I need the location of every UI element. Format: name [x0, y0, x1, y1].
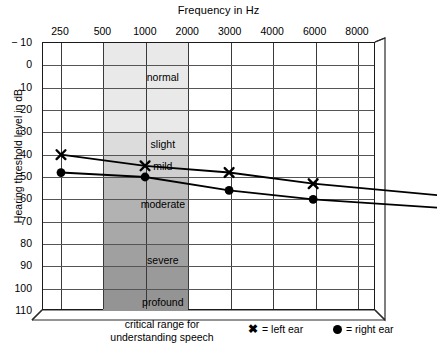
legend-left-ear: ✖ = left ear — [248, 323, 303, 335]
critical-range-caption: critical range for understanding speech — [82, 318, 242, 344]
y-tick-label: 60 — [0, 192, 32, 204]
y-tick-label: 70 — [0, 215, 32, 227]
caption-line-2: understanding speech — [82, 331, 242, 344]
data-series — [43, 43, 376, 311]
legend-right-ear-label: = right ear — [346, 323, 394, 335]
plot-area: normalslightmildmoderatesevereprofound — [42, 42, 375, 310]
legend-right-ear: = right ear — [333, 323, 394, 335]
marker-right-ear — [309, 195, 318, 204]
y-tick-label: 0 — [0, 58, 32, 70]
legend-left-ear-label: = left ear — [262, 323, 303, 335]
x-tick-label: 8000 — [345, 25, 368, 37]
caption-line-1: critical range for — [82, 318, 242, 331]
x-tick-label: 6000 — [303, 25, 326, 37]
x-tick-label: 250 — [51, 25, 69, 37]
y-tick-label: 110 — [0, 304, 32, 316]
grid-hline — [43, 311, 374, 312]
chart-title: Frequency in Hz — [0, 4, 437, 16]
x-tick-label: 1000 — [133, 25, 156, 37]
y-tick-label: 20 — [0, 103, 32, 115]
audiogram-chart: Frequency in Hz Hearing threshold level … — [0, 0, 437, 348]
x-tick-label: 500 — [94, 25, 112, 37]
x-tick-label: 4000 — [260, 25, 283, 37]
y-tick-label: 80 — [0, 237, 32, 249]
marker-right-ear — [225, 186, 234, 195]
x-marker-icon: ✖ — [248, 323, 258, 335]
y-tick-label: 10 — [0, 81, 32, 93]
y-tick-label: 90 — [0, 259, 32, 271]
x-tick-label: 3000 — [218, 25, 241, 37]
y-tick-label: 100 — [0, 282, 32, 294]
x-tick-label: 2000 — [176, 25, 199, 37]
y-tick-label: 50 — [0, 170, 32, 182]
marker-right-ear — [141, 173, 150, 182]
y-tick-label: 40 — [0, 148, 32, 160]
circle-marker-icon — [333, 325, 342, 334]
y-tick-label: 30 — [0, 125, 32, 137]
marker-right-ear — [57, 168, 66, 177]
y-tick-label: − 10 — [0, 36, 32, 48]
